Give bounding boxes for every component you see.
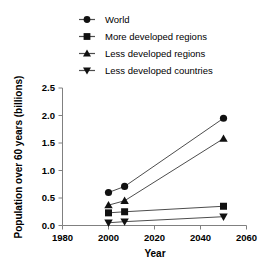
x-axis: 19802000202020402060 Year [52, 226, 257, 260]
x-axis-title: Year [144, 248, 165, 259]
x-axis-tick-labels: 19802000202020402060 [52, 232, 257, 243]
y-axis-title: Population over 60 years (billions) [13, 76, 24, 239]
y-tick-label: 2.5 [42, 82, 56, 93]
square-marker-icon [105, 209, 112, 216]
y-tick-label: 0.5 [42, 192, 56, 203]
legend-label-less-developed-regions: Less developed regions [105, 48, 206, 59]
square-marker-icon [84, 33, 91, 40]
chart-legend: World More developed regions Less develo… [79, 14, 213, 76]
legend-item-less-developed-countries: Less developed countries [79, 65, 213, 76]
x-tick-label: 2040 [190, 232, 211, 243]
triangle-up-marker-icon [219, 134, 227, 141]
y-axis-ticks [59, 88, 63, 226]
series-more-developed-regions [105, 203, 227, 217]
series-world [105, 115, 227, 196]
y-tick-label: 0.0 [42, 220, 55, 231]
legend-item-world: World [79, 14, 130, 25]
legend-label-world: World [105, 14, 130, 25]
square-marker-icon [220, 203, 227, 210]
triangle-up-marker-icon [120, 197, 128, 204]
y-tick-label: 2.0 [42, 110, 55, 121]
x-tick-label: 1980 [52, 232, 73, 243]
y-axis-tick-labels: 0.00.51.01.52.02.5 [42, 82, 56, 231]
circle-marker-icon [84, 16, 91, 23]
y-tick-label: 1.0 [42, 165, 55, 176]
y-tick-label: 1.5 [42, 137, 56, 148]
circle-marker-icon [121, 183, 128, 190]
population-over-60-line-chart: World More developed regions Less develo… [0, 0, 277, 276]
x-axis-ticks [63, 226, 247, 230]
x-tick-label: 2020 [144, 232, 165, 243]
legend-item-more-developed-regions: More developed regions [79, 31, 207, 42]
square-marker-icon [121, 208, 128, 215]
series-less-developed-regions [104, 134, 227, 208]
series-line [109, 118, 224, 192]
legend-label-more-developed-regions: More developed regions [105, 31, 207, 42]
legend-item-less-developed-regions: Less developed regions [79, 48, 206, 59]
circle-marker-icon [220, 115, 227, 122]
chart-series-layer [104, 115, 227, 227]
circle-marker-icon [105, 189, 112, 196]
series-line [109, 139, 224, 206]
x-tick-label: 2000 [98, 232, 119, 243]
series-less-developed-countries [104, 214, 227, 227]
x-tick-label: 2060 [236, 232, 257, 243]
chart-figure: World More developed regions Less develo… [0, 0, 277, 276]
legend-label-less-developed-countries: Less developed countries [105, 65, 213, 76]
y-axis: 0.00.51.01.52.02.5 Population over 60 ye… [13, 76, 63, 239]
